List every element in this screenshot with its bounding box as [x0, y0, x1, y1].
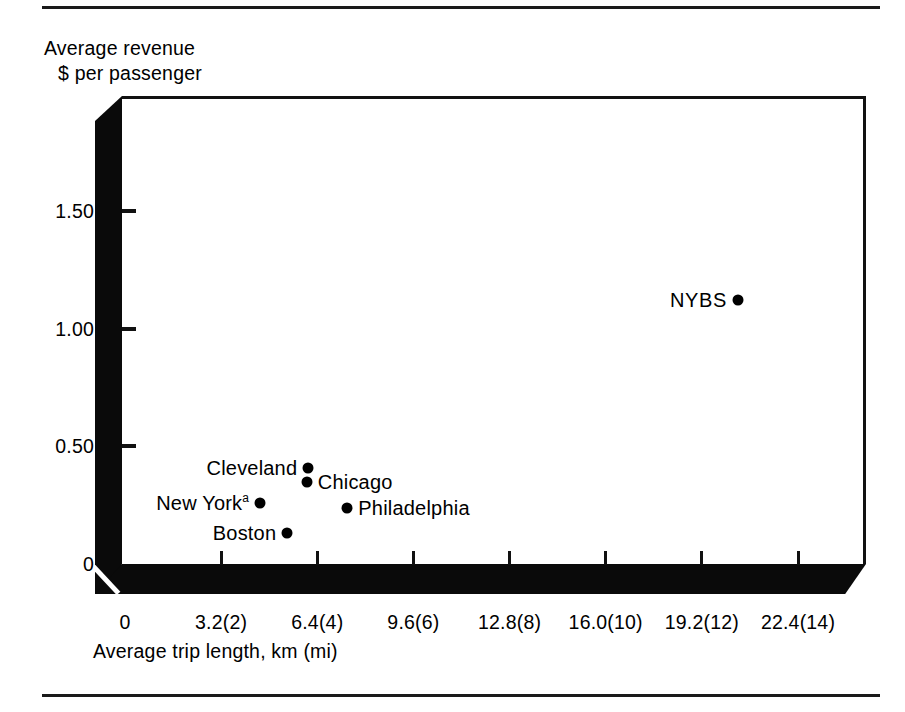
x-tick-label-2: 6.4(4): [291, 611, 343, 634]
data-point-nybs[interactable]: [732, 295, 743, 306]
data-point-chicago[interactable]: [301, 476, 312, 487]
data-point-new-york[interactable]: [255, 497, 266, 508]
bottom-horizontal-rule: [42, 694, 880, 697]
x-tick-label-6: 19.2(12): [665, 611, 739, 634]
x-tick-label-4: 12.8(8): [478, 611, 541, 634]
data-point-philadelphia[interactable]: [342, 502, 353, 513]
data-point-label-philadelphia: Philadelphia: [358, 496, 469, 519]
y-tick-3: [122, 209, 136, 213]
footnote-marker: a: [242, 491, 249, 505]
data-point-label-boston: Boston: [213, 522, 276, 545]
data-point-label-chicago: Chicago: [318, 470, 393, 493]
x-tick-label-7: 22.4(14): [761, 611, 835, 634]
figure-container: Average revenue $ per passenger 03.2(2)6…: [0, 0, 905, 712]
x-tick-2: [316, 551, 319, 565]
y-axis-title-line2: $ per passenger: [44, 61, 202, 86]
x-tick-4: [508, 551, 511, 565]
data-point-label-cleveland: Cleveland: [207, 456, 298, 479]
y-tick-label-3: 1.50: [55, 200, 94, 223]
x-tick-1: [220, 551, 223, 565]
top-horizontal-rule: [42, 6, 880, 9]
axis-corner-miter: [95, 556, 129, 598]
y-axis-title: Average revenue $ per passenger: [44, 36, 202, 86]
y-tick-2: [122, 327, 136, 331]
y-tick-label-0: 0: [83, 553, 94, 576]
y-tick-label-2: 1.00: [55, 317, 94, 340]
x-axis-title: Average trip length, km (mi): [93, 640, 338, 663]
y-axis-wall: [95, 96, 122, 594]
data-point-label-new-york: New Yorka: [156, 491, 249, 514]
x-tick-3: [412, 551, 415, 565]
x-tick-label-3: 9.6(6): [387, 611, 439, 634]
x-tick-label-0: 0: [119, 611, 130, 634]
y-axis-title-line1: Average revenue: [44, 37, 195, 59]
x-tick-7: [797, 551, 800, 565]
y-tick-1: [122, 444, 136, 448]
x-tick-label-1: 3.2(2): [195, 611, 247, 634]
y-tick-label-1: 0.50: [55, 435, 94, 458]
data-point-label-nybs: NYBS: [670, 289, 727, 312]
x-tick-5: [604, 551, 607, 565]
x-axis-wall: [95, 564, 866, 594]
data-point-cleveland[interactable]: [303, 462, 314, 473]
x-tick-label-5: 16.0(10): [569, 611, 643, 634]
x-tick-6: [700, 551, 703, 565]
data-point-boston[interactable]: [282, 528, 293, 539]
